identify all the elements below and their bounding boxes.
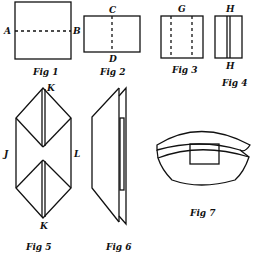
caption-fig-5: Fig 5 — [25, 242, 52, 252]
figure-6: Fig 6 — [92, 88, 132, 252]
label-b: B — [72, 26, 81, 36]
label-k-top: K — [46, 83, 56, 93]
caption-fig-6: Fig 6 — [105, 242, 132, 252]
caption-fig-4: Fig 4 — [221, 78, 248, 88]
label-c: C — [109, 5, 117, 15]
boat-hull — [158, 150, 249, 185]
figure-7: Fig 7 — [157, 132, 250, 219]
label-l: L — [73, 149, 80, 159]
lower-left-fold — [16, 160, 43, 188]
caption-fig-7: Fig 7 — [189, 208, 216, 218]
figure-3: G Fig 3 — [161, 4, 203, 75]
boat-top-rim — [157, 132, 250, 151]
inner-fold — [120, 118, 124, 190]
boat-center-block — [190, 144, 219, 164]
figure-2: C D Fig 2 — [84, 5, 140, 77]
side-profile-front — [92, 88, 119, 222]
label-k-bottom: K — [39, 221, 49, 231]
label-d: D — [108, 54, 117, 64]
hexagon-outline — [16, 88, 71, 218]
label-h-top: H — [225, 4, 235, 14]
figure-5: K K J L Fig 5 — [2, 83, 80, 252]
folded-sheet — [215, 16, 242, 58]
caption-fig-2: Fig 2 — [99, 67, 126, 77]
label-h-bottom: H — [225, 61, 235, 71]
figure-4: H H Fig 4 — [215, 4, 248, 88]
caption-fig-3: Fig 3 — [171, 65, 198, 75]
paper-folding-diagram: A B Fig 1 C D Fig 2 G Fig 3 H H Fig 4 — [0, 0, 256, 264]
label-a: A — [3, 26, 11, 36]
square-sheet — [161, 16, 203, 58]
label-g: G — [178, 4, 186, 14]
caption-fig-1: Fig 1 — [32, 67, 59, 77]
label-j: J — [2, 149, 9, 159]
lower-right-fold — [43, 160, 71, 188]
upper-right-fold — [43, 118, 71, 147]
hull-left-join — [157, 150, 158, 158]
upper-left-fold — [16, 118, 43, 147]
figure-1: A B Fig 1 — [3, 2, 81, 77]
